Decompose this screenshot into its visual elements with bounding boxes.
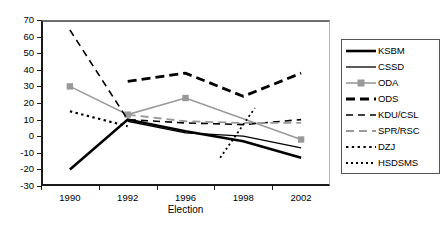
series-line [220, 108, 255, 158]
series-hsdsms [220, 108, 255, 158]
legend-item-label: ODA [378, 78, 398, 88]
legend-line-swatch-icon [345, 93, 377, 105]
series-oda [67, 83, 305, 143]
legend-item-cssd[interactable]: CSSD [345, 59, 439, 75]
legend-item-spr-rsc[interactable]: SPR/RSC [345, 123, 439, 139]
series-dzj [70, 111, 128, 126]
chart-legend: KSBMCSSDODAODSKDU/CSLSPR/RSCDZJHSDSMS [341, 39, 440, 174]
legend-item-ods[interactable]: ODS [345, 91, 439, 107]
series-line [70, 111, 128, 126]
legend-item-label: DZJ [378, 142, 395, 152]
series-ods [128, 73, 301, 96]
series-marker [67, 83, 73, 89]
series-line [70, 30, 301, 125]
legend-item-label: KDU/CSL [378, 110, 418, 120]
x-axis-title: Election [41, 204, 330, 215]
legend-item-hsdsms[interactable]: HSDSMS [345, 155, 439, 171]
legend-item-label: CSSD [378, 62, 404, 72]
legend-item-label: KSBM [378, 46, 405, 56]
legend-item-label: SPR/RSC [378, 126, 420, 136]
legend-item-label: HSDSMS [378, 158, 418, 168]
series-kdu-csl [70, 30, 301, 125]
legend-line-swatch-icon [345, 157, 377, 169]
legend-item-label: ODS [378, 94, 398, 104]
legend-line-swatch-icon [345, 61, 377, 73]
legend-line-swatch-icon [345, 45, 377, 57]
chart-container: 706050403020100-10-20-30 199019921996199… [0, 0, 444, 236]
series-marker [182, 95, 188, 101]
legend-item-dzj[interactable]: DZJ [345, 139, 439, 155]
series-marker [298, 136, 304, 142]
legend-line-swatch-icon [345, 125, 377, 137]
series-line [128, 73, 301, 96]
legend-item-kdu-csl[interactable]: KDU/CSL [345, 107, 439, 123]
legend-line-swatch-icon [345, 77, 377, 89]
legend-line-swatch-icon [345, 141, 377, 153]
legend-line-swatch-icon [345, 109, 377, 121]
legend-item-oda[interactable]: ODA [345, 75, 439, 91]
legend-item-ksbm[interactable]: KSBM [345, 43, 439, 59]
